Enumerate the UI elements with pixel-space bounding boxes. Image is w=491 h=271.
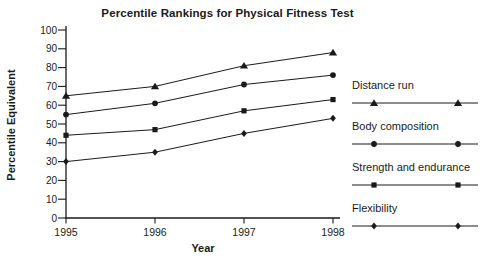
square-icon (152, 127, 157, 132)
circle-icon (152, 100, 158, 106)
x-tick-label: 1996 (125, 226, 185, 239)
square-icon (330, 97, 335, 102)
y-tick-label: 20 (46, 174, 57, 187)
circle-icon (371, 141, 377, 147)
y-tick-label: 40 (46, 136, 57, 149)
circle-icon (330, 72, 336, 78)
series-line-distance-run (66, 53, 333, 96)
diamond-icon (241, 130, 247, 137)
legend-line-diamond (352, 220, 478, 232)
circle-icon (455, 141, 461, 147)
square-icon (63, 133, 68, 138)
legend-label: Distance run (352, 79, 478, 92)
legend-line-square (352, 179, 478, 191)
series-line-body-composition (66, 75, 333, 114)
y-tick-label: 30 (46, 155, 57, 168)
series-line-strength-and-endurance (66, 100, 333, 136)
diamond-icon (330, 115, 336, 122)
circle-icon (241, 82, 247, 88)
diamond-icon (371, 223, 377, 230)
square-icon (241, 108, 246, 113)
series-line-flexibility (66, 118, 333, 161)
legend-entry-flexibility: Flexibility (352, 202, 478, 232)
y-tick-label: 60 (46, 99, 57, 112)
legend-label: Body composition (352, 120, 478, 133)
square-icon (371, 182, 376, 187)
legend-entry-distance-run: Distance run (352, 79, 478, 109)
y-tick-label: 90 (46, 42, 57, 55)
x-tick-label: 1997 (214, 226, 274, 239)
diamond-icon (63, 158, 69, 165)
circle-icon (63, 112, 69, 118)
legend-entry-body-composition: Body composition (352, 120, 478, 150)
y-tick-label: 100 (40, 24, 57, 37)
fitness-test-chart: Percentile Rankings for Physical Fitness… (0, 0, 491, 271)
y-tick-label: 80 (46, 61, 57, 74)
x-tick-label: 1995 (36, 226, 96, 239)
y-tick-label: 10 (46, 193, 57, 206)
square-icon (455, 182, 460, 187)
y-tick-label: 50 (46, 118, 57, 131)
triangle-icon (329, 49, 337, 56)
legend-line-circle (352, 138, 478, 150)
diamond-icon (152, 149, 158, 156)
legend-label: Flexibility (352, 202, 478, 215)
y-tick-label: 0 (51, 212, 57, 225)
y-tick-label: 70 (46, 80, 57, 93)
diamond-icon (455, 223, 461, 230)
legend-line-triangle (352, 97, 478, 109)
legend-entry-strength-and-endurance: Strength and endurance (352, 161, 478, 191)
legend-label: Strength and endurance (352, 161, 478, 174)
